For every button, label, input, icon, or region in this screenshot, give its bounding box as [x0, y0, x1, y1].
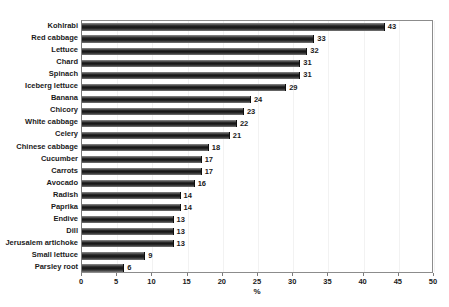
bar-row: 32 [82, 48, 432, 55]
bar-value-label: 33 [317, 35, 325, 43]
bar [82, 35, 314, 42]
category-label: Chard [56, 58, 78, 66]
bar-value-label: 16 [198, 180, 206, 188]
bar [82, 23, 385, 30]
bar-value-label: 31 [303, 71, 311, 79]
gridline [434, 21, 435, 272]
category-axis-labels: KohlrabiRed cabbageLettuceChardSpinachIc… [0, 20, 78, 273]
bar-rows: 4333323131292423222118171716141413131396 [82, 21, 432, 272]
x-tick-mark [327, 273, 328, 276]
bar [82, 216, 174, 223]
x-tick-mark [187, 273, 188, 276]
category-label: Parsley root [35, 263, 78, 271]
x-tick-label: 35 [323, 278, 331, 286]
category-label: Celery [55, 130, 78, 138]
bar [82, 108, 244, 115]
x-tick-label: 30 [288, 278, 296, 286]
x-tick-label: 5 [114, 278, 118, 286]
bar [82, 204, 181, 211]
bar-row: 6 [82, 264, 432, 271]
bar-row: 17 [82, 156, 432, 163]
bar-value-label: 23 [247, 108, 255, 116]
category-label: Chinese cabbage [16, 143, 78, 151]
bar-value-label: 17 [205, 156, 213, 164]
category-label: Iceberg lettuce [25, 82, 78, 90]
bar-row: 21 [82, 132, 432, 139]
bar [82, 132, 230, 139]
bar [82, 84, 286, 91]
category-label: Paprika [51, 203, 78, 211]
bar-row: 31 [82, 60, 432, 67]
bar-value-label: 21 [233, 132, 241, 140]
bar [82, 96, 251, 103]
bar-value-label: 22 [240, 120, 248, 128]
category-label: Dill [66, 227, 78, 235]
bar-row: 23 [82, 108, 432, 115]
category-label: Small lettuce [32, 251, 78, 259]
category-label: Kohlrabi [48, 22, 78, 30]
bar-row: 17 [82, 168, 432, 175]
bar-row: 9 [82, 252, 432, 259]
x-tick-mark [433, 273, 434, 276]
x-tick-label: 20 [218, 278, 226, 286]
bar-value-label: 6 [127, 264, 131, 272]
category-label: Endive [53, 215, 78, 223]
bar-row: 14 [82, 192, 432, 199]
bar [82, 240, 174, 247]
x-tick-mark [116, 273, 117, 276]
bar-row: 16 [82, 180, 432, 187]
plot-area: 4333323131292423222118171716141413131396 [81, 20, 433, 273]
bar-value-label: 13 [177, 240, 185, 248]
bar-row: 43 [82, 23, 432, 30]
bar-value-label: 43 [388, 23, 396, 31]
bar [82, 228, 174, 235]
x-tick-mark [151, 273, 152, 276]
x-tick-label: 40 [358, 278, 366, 286]
bar-value-label: 13 [177, 216, 185, 224]
category-label: White cabbage [25, 118, 78, 126]
category-label: Avocado [47, 179, 78, 187]
x-tick-label: 10 [147, 278, 155, 286]
bar [82, 60, 300, 67]
x-tick-label: 45 [394, 278, 402, 286]
bar-row: 13 [82, 216, 432, 223]
bar-value-label: 24 [254, 96, 262, 104]
bar-row: 22 [82, 120, 432, 127]
bar-value-label: 29 [289, 84, 297, 92]
category-label: Lettuce [51, 46, 78, 54]
bar-value-label: 17 [205, 168, 213, 176]
bar [82, 156, 202, 163]
bar [82, 168, 202, 175]
category-label: Banana [51, 94, 78, 102]
bar [82, 72, 300, 79]
bar-value-label: 32 [310, 47, 318, 55]
bar-row: 29 [82, 84, 432, 91]
bar-row: 13 [82, 240, 432, 247]
x-tick-label: 50 [429, 278, 437, 286]
bar-value-label: 13 [177, 228, 185, 236]
bar [82, 144, 209, 151]
category-label: Spinach [49, 70, 78, 78]
category-label: Cucumber [41, 155, 78, 163]
bar-row: 13 [82, 228, 432, 235]
x-axis-title: % [81, 288, 433, 296]
bar [82, 120, 237, 127]
bar-row: 18 [82, 144, 432, 151]
x-tick-mark [257, 273, 258, 276]
category-label: Chicory [50, 106, 78, 114]
x-tick-label: 15 [182, 278, 190, 286]
bar-row: 31 [82, 72, 432, 79]
bar [82, 48, 307, 55]
x-tick-mark [222, 273, 223, 276]
bar [82, 264, 124, 271]
bar-row: 33 [82, 35, 432, 42]
bar [82, 180, 195, 187]
category-label: Radish [53, 191, 78, 199]
x-tick-mark [398, 273, 399, 276]
x-tick-mark [292, 273, 293, 276]
bar-chart: KohlrabiRed cabbageLettuceChardSpinachIc… [0, 0, 449, 307]
x-tick-label: 0 [79, 278, 83, 286]
x-tick-label: 25 [253, 278, 261, 286]
bar-value-label: 14 [184, 192, 192, 200]
category-label: Red cabbage [31, 34, 78, 42]
